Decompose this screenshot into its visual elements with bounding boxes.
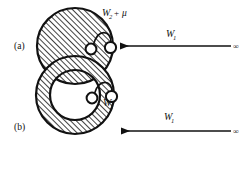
- panel-a-arrow-label: W 1: [166, 28, 176, 41]
- panel-a-boundary-circle: [105, 42, 116, 53]
- panel-b-inner-circle: [87, 93, 98, 104]
- panel-a-inner-circle: [86, 44, 97, 55]
- panel-a-label: (a): [14, 41, 25, 52]
- panel-b-infinity-label: ∞: [233, 127, 239, 136]
- panel-a-region-label-term: μ: [121, 8, 127, 18]
- panel-b-arrow-label-subscript: 1: [171, 117, 174, 124]
- panel-a-region-label: W 2 + μ: [102, 7, 127, 20]
- panel-b-label: (b): [14, 122, 25, 133]
- figure-canvas: (a) W 2 + μ W 1 ∞: [0, 0, 247, 175]
- panel-a-infinity-label: ∞: [233, 42, 239, 51]
- panel-a-region-label-subscript: 2: [109, 13, 113, 20]
- figure-container: (a) W 2 + μ W 1 ∞: [0, 0, 247, 175]
- panel-a-arrow-label-subscript: 1: [173, 34, 176, 41]
- panel-b-arrow-label: W 1: [164, 111, 174, 124]
- panel-a-region-label-operator: +: [114, 8, 119, 18]
